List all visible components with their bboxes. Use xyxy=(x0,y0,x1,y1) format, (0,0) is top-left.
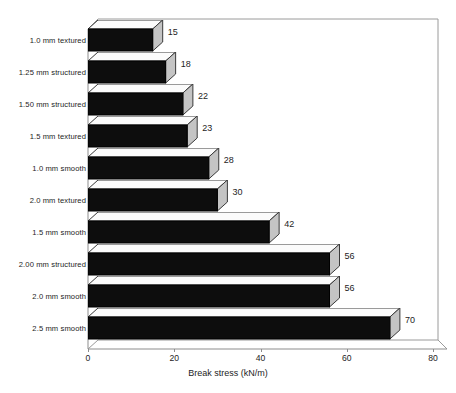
x-axis-tick-label: 40 xyxy=(248,353,274,363)
bar-3d-faces xyxy=(88,84,197,117)
category-label: 2.5 mm smooth xyxy=(0,324,86,333)
bar-value-label: 18 xyxy=(181,59,191,69)
bar-value-label: 42 xyxy=(284,219,294,229)
bar xyxy=(88,20,167,53)
category-axis-labels: 1.0 mm textured1.25 mm structured1.50 mm… xyxy=(0,0,86,393)
category-label: 1.50 mm structured xyxy=(0,100,86,109)
category-label: 1.0 mm textured xyxy=(0,36,86,45)
bar xyxy=(88,116,201,149)
bar-3d-faces xyxy=(88,116,201,149)
category-label: 2.0 mm textured xyxy=(0,196,86,205)
x-axis-tick xyxy=(88,349,89,352)
bar xyxy=(88,148,223,181)
category-label: 1.5 mm smooth xyxy=(0,228,86,237)
bar-3d-faces xyxy=(88,180,231,213)
x-axis-tick xyxy=(174,349,175,352)
bar-value-label: 22 xyxy=(198,91,208,101)
category-label: 1.5 mm textured xyxy=(0,132,86,141)
x-axis-tick xyxy=(261,349,262,352)
bar xyxy=(88,308,404,341)
bar xyxy=(88,244,344,277)
bar-3d-faces xyxy=(88,276,344,309)
x-axis-tick xyxy=(433,349,434,352)
bar-3d-faces xyxy=(88,52,180,85)
bar-3d-faces xyxy=(88,212,283,245)
bar-value-label: 15 xyxy=(168,27,178,37)
bar-3d-faces xyxy=(88,148,223,181)
category-label: 1.25 mm structured xyxy=(0,68,86,77)
bar xyxy=(88,84,197,117)
bar-value-label: 56 xyxy=(345,251,355,261)
category-label: 2.0 mm smooth xyxy=(0,292,86,301)
bar-value-label: 30 xyxy=(232,187,242,197)
bar xyxy=(88,212,283,245)
x-axis-tick xyxy=(347,349,348,352)
x-axis-tick-label: 20 xyxy=(161,353,187,363)
bar-value-label: 70 xyxy=(405,315,415,325)
bar-3d-faces xyxy=(88,20,167,53)
x-axis-tick-label: 60 xyxy=(334,353,360,363)
bar xyxy=(88,180,231,213)
bar-value-label: 23 xyxy=(202,123,212,133)
bar-chart: 1.0 mm textured1.25 mm structured1.50 mm… xyxy=(0,0,456,393)
x-axis-tick-label: 80 xyxy=(420,353,446,363)
bar-3d-faces xyxy=(88,244,344,277)
category-label: 2.00 mm structured xyxy=(0,260,86,269)
bar-value-label: 56 xyxy=(345,283,355,293)
bar xyxy=(88,276,344,309)
x-axis-tick-label: 0 xyxy=(75,353,101,363)
bar-3d-faces xyxy=(88,308,404,341)
bar-value-label: 28 xyxy=(224,155,234,165)
bar xyxy=(88,52,180,85)
x-axis-title: Break stress (kN/m) xyxy=(0,368,456,379)
category-label: 1.0 mm smooth xyxy=(0,164,86,173)
